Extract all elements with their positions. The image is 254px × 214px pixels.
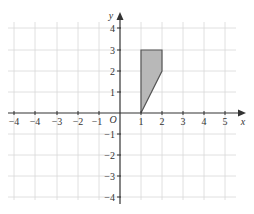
shaded-shape [141,50,162,113]
y-axis-arrow-icon [117,12,124,20]
y-tick-label: −2 [104,150,115,161]
y-tick-label: 3 [110,45,115,56]
y-axis [117,12,124,204]
coordinate-grid: −4 −4 −3 −2 −1 1 2 3 4 5 4 3 2 1 −1 −2 −… [0,0,254,214]
x-tick-label: 5 [223,116,228,127]
x-tick-label: 1 [139,116,144,127]
origin-label: O [109,114,116,125]
y-tick-label: −4 [104,192,115,203]
x-tick-label: −3 [52,116,63,127]
x-tick-label: −1 [92,116,103,127]
x-tick-label: −4 [30,116,41,127]
y-tick-label: 2 [110,66,115,77]
x-tick-label: 3 [181,116,186,127]
y-tick-label: 1 [110,87,115,98]
x-tick-label: −2 [73,116,84,127]
y-tick-label: −3 [104,171,115,182]
x-tick-label: 4 [202,116,207,127]
y-tick-label: 4 [110,23,115,34]
y-axis-label: y [108,10,114,21]
x-tick-label: −4 [9,116,20,127]
grid-lines [8,22,236,200]
x-tick-label: 2 [160,116,165,127]
x-axis [8,110,246,117]
y-tick-label: −1 [104,129,115,140]
x-axis-label: x [240,116,246,127]
x-tick-labels: −4 −4 −3 −2 −1 1 2 3 4 5 [9,116,228,127]
